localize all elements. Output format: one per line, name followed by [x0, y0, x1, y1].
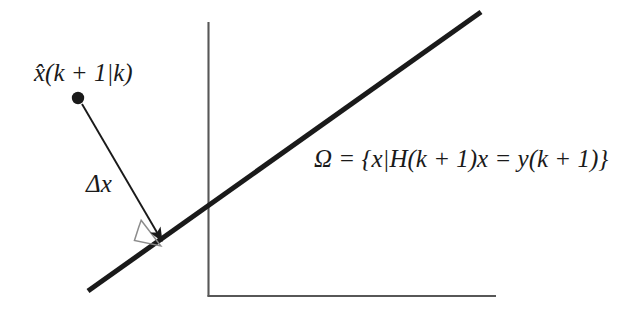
- predicted-state-label: x̂(k + 1|k): [34, 60, 133, 85]
- correction-label: Δx: [86, 171, 112, 196]
- constraint-set-label: Ω = {x|H(k + 1)x = y(k + 1)}: [314, 146, 608, 171]
- state-point-dot: [72, 92, 84, 104]
